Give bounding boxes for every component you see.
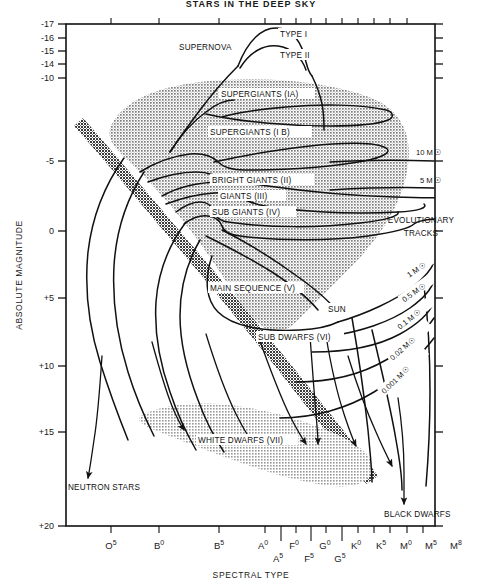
svg-text:SUB GIANTS (IV): SUB GIANTS (IV) (212, 208, 280, 217)
svg-text:+5: +5 (44, 293, 54, 303)
x-axis-labels-lower: A5 F5 G5 (273, 552, 346, 564)
svg-text:+15: +15 (39, 427, 54, 437)
x-label-f5: F5 (304, 552, 314, 564)
y-tick-1: -16 (41, 33, 443, 43)
svg-text:TYPE II: TYPE II (280, 51, 310, 60)
label-sub-dwarfs: SUB DWARFS (VI) (256, 331, 344, 342)
y-axis-title: ABSOLUTE MAGNITUDE (14, 220, 24, 330)
x-label-m8: M8 (450, 539, 462, 551)
mass-label-5msun: 5 M☉ (418, 174, 458, 185)
svg-text:5 M☉: 5 M☉ (420, 176, 441, 185)
svg-text:-15: -15 (41, 46, 54, 56)
svg-text:-10: -10 (41, 73, 54, 83)
svg-text:WHITE DWARFS (VII): WHITE DWARFS (VII) (198, 436, 283, 445)
x-label-m5: M5 (425, 539, 437, 551)
svg-text:SUN: SUN (328, 305, 346, 314)
x-label-b5: B5 (214, 539, 224, 551)
label-sub-giants: SUB GIANTS (IV) (210, 206, 296, 217)
x-label-f0: F0 (289, 539, 299, 551)
svg-text:10 M☉: 10 M☉ (416, 148, 441, 157)
top-axis-ticks (111, 18, 407, 24)
x-label-b0: B0 (154, 539, 164, 551)
x-label-a5: A5 (273, 552, 283, 564)
svg-text:-16: -16 (41, 33, 54, 43)
label-neutron-stars: NEUTRON STARS (66, 481, 148, 492)
svg-text:MAIN SEQUENCE (V): MAIN SEQUENCE (V) (210, 284, 295, 293)
x-label-a0: A0 (258, 539, 268, 551)
svg-text:-14: -14 (41, 59, 54, 69)
svg-text:EVOLUTIONARY: EVOLUTIONARY (388, 216, 455, 225)
x-label-m0: M0 (400, 539, 412, 551)
svg-text:TRACKS: TRACKS (404, 229, 439, 238)
svg-text:SUPERGIANTS (I B): SUPERGIANTS (I B) (210, 128, 290, 137)
label-giants: GIANTS (III) (218, 190, 286, 201)
label-white-dwarfs: WHITE DWARFS (VII) (196, 434, 298, 445)
svg-text:BRIGHT GIANTS (II): BRIGHT GIANTS (II) (212, 176, 291, 185)
label-supergiants-ib: SUPERGIANTS (I B) (208, 126, 312, 137)
x-label-k0: K0 (351, 539, 361, 551)
x-axis-labels-upper: O5 B0 B5 A0 F0 G0 K0 K5 M0 M5 M8 (105, 539, 462, 551)
mass-label-10msun: 10 M☉ (414, 146, 458, 157)
x-axis-title: SPECTRAL TYPE (213, 570, 290, 580)
svg-text:SUB DWARFS (VI): SUB DWARFS (VI) (258, 333, 331, 342)
svg-text:SUPERGIANTS (IA): SUPERGIANTS (IA) (221, 90, 298, 99)
label-black-dwarfs: BLACK DWARFS (382, 508, 462, 519)
page-title: STARS IN THE DEEP SKY (186, 0, 317, 9)
label-bright-giants: BRIGHT GIANTS (II) (210, 174, 314, 185)
label-evolutionary-tracks: EVOLUTIONARY TRACKS (388, 216, 455, 238)
label-supergiants-ia: SUPERGIANTS (IA) (219, 88, 315, 99)
svg-text:+20: +20 (39, 521, 54, 531)
x-label-g5: G5 (334, 552, 345, 564)
y-tick-2: -15 (41, 46, 443, 56)
label-type-ii: TYPE II (278, 49, 322, 60)
svg-text:NEUTRON STARS: NEUTRON STARS (68, 483, 140, 492)
x-label-g0: G0 (319, 539, 330, 551)
hr-diagram-figure: STARS IN THE DEEP SKY (0, 0, 503, 582)
label-type-i: TYPE I (278, 28, 316, 39)
label-main-sequence: MAIN SEQUENCE (V) (208, 282, 304, 293)
arrow-to-black-dwarfs (398, 398, 404, 504)
descent-loop-outer (87, 158, 128, 440)
arrow-to-neutron-stars (88, 356, 102, 478)
svg-text:+10: +10 (39, 361, 54, 371)
svg-text:BLACK DWARFS: BLACK DWARFS (384, 510, 451, 519)
svg-text:-17: -17 (41, 19, 54, 29)
svg-text:TYPE I: TYPE I (280, 30, 307, 39)
svg-text:SUPERNOVA: SUPERNOVA (179, 43, 232, 52)
svg-text:GIANTS (III): GIANTS (III) (220, 192, 268, 201)
x-label-k5: K5 (376, 539, 386, 551)
label-sun: SUN (326, 303, 350, 314)
x-label-o5: O5 (105, 539, 116, 551)
svg-text:-5: -5 (46, 156, 54, 166)
svg-text:0: 0 (49, 226, 54, 236)
label-supernova: SUPERNOVA (177, 41, 241, 52)
